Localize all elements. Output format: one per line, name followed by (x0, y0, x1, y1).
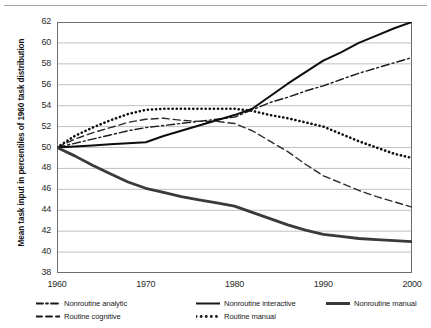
x-tick-label: 1990 (303, 279, 343, 289)
legend-row: Nonroutine analyticNonroutine interactiv… (36, 297, 426, 310)
plot-svg (57, 22, 412, 273)
y-tick-label: 62 (29, 16, 51, 26)
y-tick-label: 52 (29, 121, 51, 131)
series-line-4 (57, 148, 412, 242)
plot-area (57, 22, 412, 273)
legend-item[interactable]: Nonroutine interactive (196, 297, 296, 310)
x-tick-label: 1980 (215, 279, 255, 289)
legend-label: Routine cognitive (64, 312, 121, 321)
y-tick-label: 38 (29, 267, 51, 277)
y-tick-label: 50 (29, 142, 51, 152)
legend-label: Nonroutine manual (354, 299, 416, 308)
legend-swatch-thick (326, 299, 350, 308)
y-tick-label: 58 (29, 58, 51, 68)
y-tick-label: 44 (29, 204, 51, 214)
series-line-0 (57, 58, 412, 148)
y-tick-label: 40 (29, 246, 51, 256)
y-tick-label: 60 (29, 37, 51, 47)
legend-swatch-dash-dot (36, 299, 60, 308)
legend-item[interactable]: Nonroutine manual (326, 297, 416, 310)
legend-label: Routine manual (224, 312, 276, 321)
x-tick-label: 2000 (392, 279, 431, 289)
y-tick-label: 42 (29, 225, 51, 235)
legend-swatch-dashed (36, 312, 60, 321)
legend-swatch-dotted (196, 312, 220, 321)
legend-row: Routine cognitiveRoutine manual (36, 310, 426, 323)
x-tick-label: 1960 (37, 279, 77, 289)
legend-label: Nonroutine analytic (64, 299, 127, 308)
legend-item[interactable]: Nonroutine analytic (36, 297, 127, 310)
legend-swatch-solid (196, 299, 220, 308)
legend-item[interactable]: Routine manual (196, 310, 276, 323)
x-tick-label: 1970 (126, 279, 166, 289)
chart-legend: Nonroutine analyticNonroutine interactiv… (36, 297, 426, 325)
series-line-3 (57, 109, 412, 158)
y-tick-label: 48 (29, 162, 51, 172)
y-tick-label: 54 (29, 100, 51, 110)
y-tick-label: 56 (29, 79, 51, 89)
y-tick-label: 46 (29, 183, 51, 193)
series-line-1 (57, 118, 412, 207)
legend-item[interactable]: Routine cognitive (36, 310, 121, 323)
header-divider (4, 5, 427, 6)
legend-label: Nonroutine interactive (224, 299, 296, 308)
chart-figure: Mean task input in percentiles of 1960 t… (0, 0, 431, 328)
y-axis-title: Mean task input in percentiles of 1960 t… (17, 14, 26, 272)
